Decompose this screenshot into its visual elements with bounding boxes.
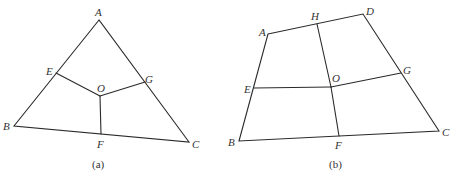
point-label-e: E — [243, 83, 251, 95]
figure-b-quadrilateral: A H D E O G B F C (b) — [228, 5, 450, 171]
edge-h-o — [317, 24, 331, 87]
point-label-h: H — [310, 10, 320, 22]
point-label-g: G — [145, 73, 153, 85]
point-label-g: G — [403, 64, 411, 76]
caption-b: (b) — [329, 158, 342, 171]
point-label-o: O — [332, 72, 340, 84]
vertex-label-a: A — [258, 26, 266, 38]
vertex-label-a: A — [94, 6, 102, 18]
point-label-f: F — [96, 138, 104, 150]
triangle-abc-outline — [14, 20, 189, 142]
edge-g-o — [100, 82, 145, 96]
edge-o-f — [331, 87, 339, 136]
caption-a: (a) — [92, 158, 105, 171]
figure-a-triangle: A B C E G O F (a) — [3, 6, 200, 171]
edge-o-f — [100, 96, 101, 134]
vertex-label-d: D — [365, 5, 374, 17]
edge-o-g — [331, 73, 401, 87]
figure-canvas: A B C E G O F (a) A H D E O G B F C (b) — [0, 0, 450, 176]
edge-e-o — [254, 87, 331, 88]
vertex-label-b: B — [3, 120, 10, 132]
vertex-label-c: C — [442, 126, 450, 138]
point-label-e: E — [45, 65, 53, 77]
vertex-label-c: C — [192, 138, 200, 150]
edge-e-o — [56, 73, 100, 96]
vertex-label-b: B — [228, 136, 235, 148]
point-label-f: F — [334, 139, 342, 151]
point-label-o: O — [97, 82, 105, 94]
